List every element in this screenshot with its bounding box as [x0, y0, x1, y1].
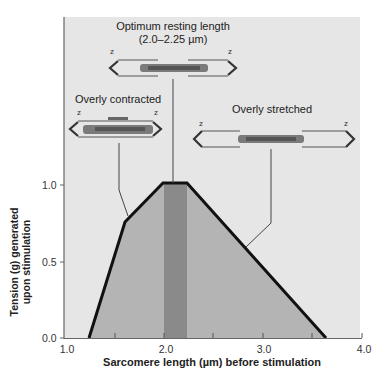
y-axis-title-line1: Tension (g) generated — [8, 208, 20, 317]
z-line-label: z — [77, 108, 81, 117]
x-tick-label: 4.0 — [357, 343, 372, 355]
x-tick-label: 2.0 — [159, 343, 174, 355]
y-tick-label: 1.0 — [42, 179, 57, 191]
y-tick-label: 0.0 — [42, 332, 57, 344]
stretched-label: Overly stretched — [232, 103, 312, 115]
length-tension-figure: Optimum resting length (2.0–2.25 µm) z z… — [0, 0, 384, 385]
optimum-range-label: (2.0–2.25 µm) — [139, 33, 208, 45]
z-line-label: z — [228, 47, 232, 56]
z-line-label: z — [110, 47, 114, 56]
contracted-label: Overly contracted — [75, 93, 161, 105]
optimum-band — [164, 182, 187, 338]
y-axis-title: Tension (g) generated upon stimulation — [8, 208, 32, 317]
x-axis-title: Sarcomere length (µm) before stimulation — [103, 356, 321, 368]
y-tick-label: 0.5 — [42, 256, 57, 268]
z-line-label: z — [154, 108, 158, 117]
z-line-label: z — [199, 119, 203, 128]
y-axis-title-line2: upon stimulation — [20, 208, 32, 317]
z-line-label: z — [344, 119, 348, 128]
optimum-label: Optimum resting length — [116, 20, 230, 32]
x-tick-label: 3.0 — [257, 343, 272, 355]
x-tick-label: 1.0 — [60, 343, 75, 355]
